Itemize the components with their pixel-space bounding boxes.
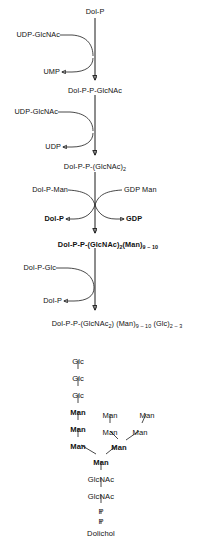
- intermediate-3-sub1: 2: [119, 244, 122, 250]
- final-part2: ) (Man): [112, 319, 136, 328]
- step-3-product-right-label: GDP: [126, 215, 142, 222]
- tree-node-glcnac-2: GlcNAc: [88, 493, 114, 501]
- final-part1: Dol-P-P-(GlcNAc: [52, 319, 109, 328]
- intermediate-dol-p-p-glcnac2: Dol-P-P-(GlcNAc)2: [64, 163, 126, 170]
- tree-node-dolichol: Dolichol: [87, 530, 115, 538]
- tree-node-man-a3: Man: [70, 443, 86, 451]
- tree-node-man-base: Man: [93, 459, 109, 467]
- step-3-substrate-left-label: Dol-P-Man: [32, 186, 68, 193]
- tree-node-man-core: Man: [111, 444, 127, 452]
- final-part3: (Glc): [151, 319, 169, 328]
- step-2-product-label: UDP: [45, 143, 61, 150]
- tree-node-man-c1: Man: [139, 412, 154, 420]
- final-product-label: Dol-P-P-(GlcNAc2) (Man)9 – 10 (Glc)2 – 3: [52, 320, 183, 327]
- intermediate-dol-p-p-glcnac: Dol-P-P-GlcNAc: [68, 87, 122, 94]
- pathway-start-label: Dol-P: [86, 8, 105, 15]
- intermediate-2-subscript: 2: [123, 166, 126, 172]
- intermediate-3-sub2: 9 – 10: [143, 244, 159, 250]
- tree-node-glc-1: Glc: [72, 358, 84, 366]
- tree-node-man-a2: Man: [70, 426, 86, 434]
- tree-node-man-b1: Man: [102, 412, 117, 420]
- step-1-product-label: UMP: [43, 68, 60, 75]
- tree-node-p-2: P: [98, 518, 103, 526]
- step-4-substrate-label: Dol-P-Glc: [23, 264, 56, 271]
- step-3-product-left-label: Dol-P: [44, 215, 64, 222]
- intermediate-2-text: Dol-P-P-(GlcNAc): [64, 162, 123, 171]
- step-2-substrate-label: UDP-GlcNAc: [14, 108, 58, 115]
- tree-node-glc-2: Glc: [72, 375, 84, 383]
- intermediate-3-part1: Dol-P-P-(GlcNAc): [58, 240, 120, 249]
- final-sub3: 2 – 3: [170, 323, 183, 329]
- tree-node-man-a1: Man: [70, 409, 86, 417]
- tree-node-man-b2: Man: [102, 429, 117, 437]
- intermediate-dol-p-p-glcnac2-man: Dol-P-P-(GlcNAc)2(Man)9 – 10: [58, 241, 158, 248]
- final-sub2: 9 – 10: [136, 323, 152, 329]
- step-1-substrate-label: UDP-GlcNAc: [16, 31, 60, 38]
- intermediate-3-part2: (Man): [123, 240, 143, 249]
- step-3-substrate-right-label: GDP Man: [124, 186, 157, 193]
- tree-node-man-c2: Man: [132, 429, 147, 437]
- tree-node-glc-3: Glc: [72, 392, 84, 400]
- step-4-product-label: Dol-P: [43, 297, 62, 304]
- final-sub1: 2: [108, 323, 111, 329]
- tree-node-p-1: P: [98, 508, 103, 516]
- tree-node-glcnac-1: GlcNAc: [88, 476, 114, 484]
